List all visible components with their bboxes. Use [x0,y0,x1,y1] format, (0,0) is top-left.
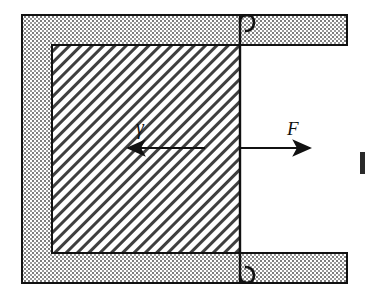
shear-strain-label: γ [136,117,144,137]
shear-deformation-diagram: F γ [0,0,369,298]
force-label: F [287,119,299,138]
diagram-canvas [0,0,369,298]
cropped-edge-bar [360,152,365,174]
